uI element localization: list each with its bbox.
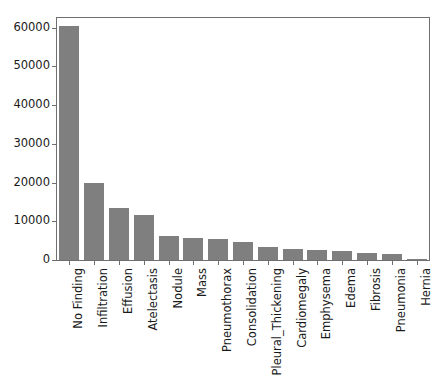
y-axis-tick-mark xyxy=(52,105,56,106)
bar xyxy=(109,208,129,260)
x-axis-tick-mark xyxy=(94,261,95,265)
x-axis-tick-label: Pleural_Thickening xyxy=(272,268,284,375)
bar xyxy=(233,242,253,260)
x-axis-tick-mark xyxy=(243,261,244,265)
x-axis-tick-mark xyxy=(367,261,368,265)
y-axis-tick-label: 50000 xyxy=(4,61,50,73)
x-axis-tick-label: Hernia xyxy=(421,268,433,306)
x-axis-tick-label: Consolidation xyxy=(247,268,259,346)
x-axis-tick-label: No Finding xyxy=(73,268,85,329)
x-axis-tick-mark xyxy=(417,261,418,265)
x-axis-tick-label: Mass xyxy=(197,268,209,297)
x-axis-tick-label: Edema xyxy=(346,268,358,308)
x-axis-tick-mark xyxy=(293,261,294,265)
y-axis-tick-label: 60000 xyxy=(4,22,50,34)
x-axis-tick-label: Nodule xyxy=(173,268,185,309)
y-axis-tick-mark xyxy=(52,144,56,145)
bar xyxy=(134,215,154,260)
y-axis-tick-label: 40000 xyxy=(4,99,50,111)
y-axis-tick-label: 0 xyxy=(4,254,50,266)
x-axis-tick-label: Infiltration xyxy=(98,268,110,327)
x-axis-tick-label: Effusion xyxy=(123,268,135,314)
bar xyxy=(407,259,427,260)
bar xyxy=(283,249,303,260)
bar xyxy=(59,26,79,260)
y-axis-tick-mark xyxy=(52,260,56,261)
x-axis-tick-mark xyxy=(218,261,219,265)
x-axis-tick-mark xyxy=(193,261,194,265)
x-axis-tick-mark xyxy=(69,261,70,265)
bar xyxy=(84,183,104,260)
chart-root: 0100002000030000400005000060000 No Findi… xyxy=(0,0,446,387)
x-axis-tick-label: Pneumothorax xyxy=(222,268,234,352)
x-axis-tick-mark xyxy=(268,261,269,265)
x-axis-tick-label: Cardiomegaly xyxy=(297,268,309,348)
y-axis-tick-mark xyxy=(52,183,56,184)
x-axis-tick-mark xyxy=(392,261,393,265)
y-axis: 0100002000030000400005000060000 xyxy=(0,0,50,387)
bar xyxy=(382,254,402,260)
y-axis-tick-mark xyxy=(52,221,56,222)
bars-layer xyxy=(57,18,429,260)
bar xyxy=(208,239,228,260)
bar xyxy=(332,251,352,260)
y-axis-tick-mark xyxy=(52,66,56,67)
x-axis-tick-mark xyxy=(317,261,318,265)
x-axis-tick-mark xyxy=(169,261,170,265)
bar xyxy=(183,238,203,260)
bar xyxy=(258,247,278,260)
y-axis-tick-label: 30000 xyxy=(4,138,50,150)
bar xyxy=(159,236,179,261)
x-axis-tick-mark xyxy=(144,261,145,265)
y-axis-tick-mark xyxy=(52,28,56,29)
bar xyxy=(357,253,377,260)
bar xyxy=(307,250,327,260)
x-axis-tick-mark xyxy=(342,261,343,265)
x-axis-tick-label: Emphysema xyxy=(321,268,333,339)
x-axis-tick-label: Atelectasis xyxy=(148,268,160,331)
x-axis-tick-mark xyxy=(119,261,120,265)
x-axis-tick-label: Fibrosis xyxy=(371,268,383,311)
y-axis-tick-label: 20000 xyxy=(4,177,50,189)
y-axis-tick-label: 10000 xyxy=(4,216,50,228)
x-axis-tick-label: Pneumonia xyxy=(396,268,408,332)
